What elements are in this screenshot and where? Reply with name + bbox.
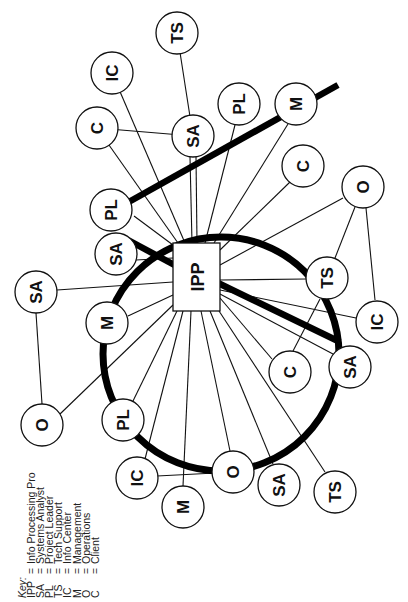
svg-text:C: C [281, 366, 300, 378]
node-sa[interactable]: SA [95, 233, 137, 275]
svg-text:M: M [98, 316, 117, 330]
node-ic[interactable]: IC [356, 301, 398, 343]
node-ic[interactable]: IC [91, 52, 133, 94]
node-o[interactable]: O [212, 451, 254, 493]
ipp-center-node[interactable]: IPP [173, 243, 220, 311]
svg-text:C: C [294, 160, 313, 172]
node-sa[interactable]: SA [172, 115, 214, 157]
svg-text:M: M [174, 500, 193, 514]
node-ts[interactable]: TS [156, 12, 198, 54]
svg-text:SA: SA [184, 124, 203, 148]
node-c[interactable]: C [269, 351, 311, 393]
node-ts[interactable]: TS [306, 257, 348, 299]
node-o[interactable]: O [342, 166, 384, 208]
team-ring [103, 237, 339, 471]
svg-text:SA: SA [27, 280, 46, 304]
node-ts[interactable]: TS [314, 471, 356, 513]
node-pl[interactable]: PL [102, 399, 144, 441]
svg-text:TS: TS [326, 481, 345, 503]
node-m[interactable]: M [86, 302, 128, 344]
ipp-label: IPP [188, 262, 208, 291]
svg-text:O: O [33, 418, 52, 431]
svg-text:SA: SA [270, 473, 289, 497]
svg-text:M: M [287, 97, 306, 111]
svg-text:TS: TS [168, 22, 187, 44]
node-c[interactable]: C [282, 145, 324, 187]
network-diagram: IPP TS IC C SA PL M C O PL SA TS IC SA M… [0, 0, 408, 602]
node-pl[interactable]: PL [90, 189, 132, 231]
svg-text:O: O [354, 180, 373, 193]
node-m[interactable]: M [162, 486, 204, 528]
svg-text:TS: TS [318, 267, 337, 289]
svg-text:IC: IC [128, 470, 147, 487]
svg-text:SA: SA [107, 242, 126, 266]
svg-text:PL: PL [102, 199, 121, 221]
node-ic[interactable]: IC [116, 457, 158, 499]
node-sa[interactable]: SA [258, 464, 300, 506]
svg-text:O: O [224, 465, 243, 478]
svg-text:C: C [88, 122, 107, 134]
svg-text:PL: PL [230, 93, 249, 115]
node-m[interactable]: M [275, 83, 317, 125]
node-pl[interactable]: PL [218, 83, 260, 125]
svg-text:IC: IC [103, 65, 122, 82]
node-sa[interactable]: SA [329, 346, 371, 388]
node-sa[interactable]: SA [15, 271, 57, 313]
node-o[interactable]: O [21, 404, 63, 446]
svg-text:PL: PL [114, 409, 133, 431]
svg-text:IC: IC [368, 314, 387, 331]
node-c[interactable]: C [76, 107, 118, 149]
svg-text:SA: SA [341, 355, 360, 379]
